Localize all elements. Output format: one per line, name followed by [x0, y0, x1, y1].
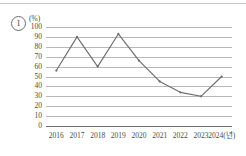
- data-point: [138, 60, 140, 62]
- x-tick-label: 2018: [90, 131, 105, 140]
- x-tick-label: 2021: [152, 131, 167, 140]
- data-point: [179, 91, 181, 93]
- data-point: [159, 80, 161, 82]
- x-tick-label: 2022: [173, 131, 188, 140]
- data-point: [97, 66, 99, 68]
- x-axis-tick-labels: 201620172018201920202021202220232024(년): [0, 131, 246, 145]
- series-line: [56, 34, 221, 96]
- data-point: [200, 95, 202, 97]
- x-tick-label: 2023: [194, 131, 209, 140]
- x-tick-label: 2019: [111, 131, 126, 140]
- data-point: [221, 75, 223, 77]
- x-tick-label: 2020: [132, 131, 147, 140]
- x-tick-label: 2016: [49, 131, 64, 140]
- x-tick-label: 2024(년): [208, 131, 235, 140]
- data-point: [117, 33, 119, 35]
- line-chart-figure: 1 (%) 1009080706050403020100 20162017201…: [0, 0, 246, 156]
- data-point: [76, 36, 78, 38]
- data-point: [55, 69, 57, 71]
- x-tick-label: 2017: [70, 131, 85, 140]
